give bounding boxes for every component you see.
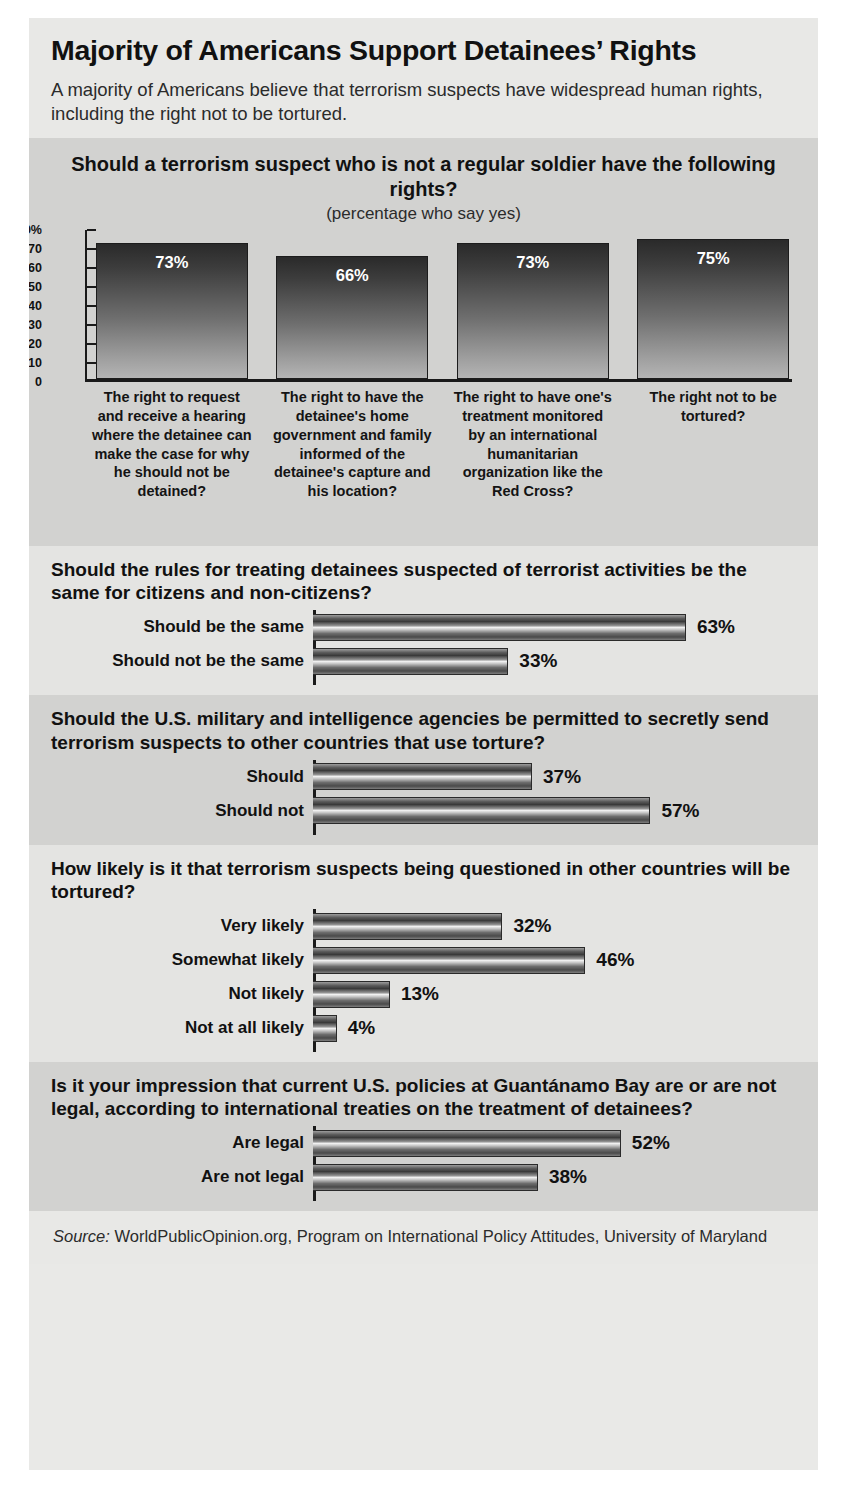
source-text: WorldPublicOpinion.org, Program on Inter… — [110, 1227, 767, 1245]
y-tick-label-60: 60 — [29, 261, 42, 275]
bar-value-label: 57% — [661, 800, 699, 822]
horizontal-bar — [313, 763, 532, 790]
bar-value-label: 52% — [632, 1132, 670, 1154]
bar-category-label: Should not — [51, 801, 313, 821]
bar-category-label: Not likely — [51, 984, 313, 1004]
chart-section-rules-same: Should the rules for treating detainees … — [29, 546, 818, 695]
horizontal-bar — [313, 797, 650, 824]
vertical-bar-slot: 75% — [632, 230, 794, 379]
bar-row: Should not be the same 33% — [51, 644, 796, 678]
bar-row: Not at all likely 4% — [51, 1011, 796, 1045]
chart-subtitle-rights: (percentage who say yes) — [51, 204, 796, 224]
horizontal-bar — [313, 1015, 337, 1042]
vertical-bars-group: 73% 66% 73% 75 — [91, 230, 794, 379]
category-labels-group: The right to request and receive a heari… — [51, 388, 796, 501]
bar-row: Not likely 13% — [51, 977, 796, 1011]
horizontal-bar-chart: Are legal 52% Are not legal 38% — [51, 1126, 796, 1201]
source-footer: Source: WorldPublicOpinion.org, Program … — [29, 1211, 818, 1263]
bar-value-label: 63% — [697, 616, 735, 638]
y-tick-label-40: 40 — [29, 299, 42, 313]
chart-section-rendition: Should the U.S. military and intelligenc… — [29, 695, 818, 844]
bar-category-label: Somewhat likely — [51, 950, 313, 970]
horizontal-bar-chart: Should be the same 63% Should not be the… — [51, 610, 796, 685]
vertical-bar: 75% — [637, 239, 789, 379]
horizontal-bar — [313, 648, 508, 675]
category-label: The right to have the detainee's home go… — [271, 388, 433, 501]
vertical-bar: 66% — [276, 256, 428, 379]
bar-category-label: Are legal — [51, 1133, 313, 1153]
category-label: The right not to be tortured? — [632, 388, 794, 501]
vertical-bar-slot: 73% — [452, 230, 614, 379]
bar-category-label: Should — [51, 767, 313, 787]
vertical-bar-slot: 73% — [91, 230, 253, 379]
bar-value-label: 4% — [348, 1017, 375, 1039]
vertical-bar-slot: 66% — [271, 230, 433, 379]
page-subtitle: A majority of Americans believe that ter… — [51, 78, 796, 126]
horizontal-bar — [313, 981, 390, 1008]
chart-title-rules-same: Should the rules for treating detainees … — [51, 558, 796, 604]
y-tick-label-80: 80% — [29, 223, 42, 237]
y-tick-label-50: 50 — [29, 280, 42, 294]
chart-title-rights: Should a terrorism suspect who is not a … — [51, 152, 796, 202]
bar-category-label: Not at all likely — [51, 1018, 313, 1038]
chart-section-guantanamo: Is it your impression that current U.S. … — [29, 1062, 818, 1211]
bar-value-label: 46% — [596, 949, 634, 971]
horizontal-bar-chart: Very likely 32% Somewhat likely 46% — [51, 909, 796, 1052]
bar-row: Are not legal 38% — [51, 1160, 796, 1194]
y-tick-label-0: 0 — [29, 375, 42, 389]
source-label: Source: — [53, 1227, 110, 1245]
bar-value-label: 37% — [543, 766, 581, 788]
bar-category-label: Very likely — [51, 916, 313, 936]
poster-card: Majority of Americans Support Detainees’… — [29, 18, 818, 1470]
bar-value-label: 38% — [549, 1166, 587, 1188]
bar-row: Should 37% — [51, 760, 796, 794]
bar-row: Very likely 32% — [51, 909, 796, 943]
bar-category-label: Should be the same — [51, 617, 313, 637]
poster-header: Majority of Americans Support Detainees’… — [29, 18, 818, 138]
vertical-bar: 73% — [96, 243, 248, 379]
horizontal-bar — [313, 947, 585, 974]
chart-section-rights: Should a terrorism suspect who is not a … — [29, 138, 818, 546]
horizontal-bar-chart: Should 37% Should not 57% — [51, 760, 796, 835]
infographic-page: Majority of Americans Support Detainees’… — [0, 0, 847, 1487]
category-label: The right to have one's treatment monito… — [452, 388, 614, 501]
bar-value-label: 66% — [277, 266, 427, 285]
bar-value-label: 75% — [638, 249, 788, 268]
bar-value-label: 13% — [401, 983, 439, 1005]
y-tick-label-30: 30 — [29, 318, 42, 332]
y-tick-label-70: 70 — [29, 242, 42, 256]
y-tick-label-20: 20 — [29, 337, 42, 351]
category-label: The right to request and receive a heari… — [91, 388, 253, 501]
horizontal-bar — [313, 1130, 621, 1157]
horizontal-bar — [313, 614, 686, 641]
y-tick-label-10: 10 — [29, 356, 42, 370]
bar-row: Somewhat likely 46% — [51, 943, 796, 977]
bar-category-label: Should not be the same — [51, 651, 313, 671]
chart-title-likelihood: How likely is it that terrorism suspects… — [51, 857, 796, 903]
chart-title-guantanamo: Is it your impression that current U.S. … — [51, 1074, 796, 1120]
bar-value-label: 32% — [513, 915, 551, 937]
page-title: Majority of Americans Support Detainees’… — [51, 36, 796, 66]
bar-value-label: 33% — [519, 650, 557, 672]
bar-value-label: 73% — [97, 253, 247, 272]
bar-row: Should not 57% — [51, 794, 796, 828]
bar-row: Are legal 52% — [51, 1126, 796, 1160]
vertical-bar: 73% — [457, 243, 609, 379]
vertical-bar-chart: 80% 70 60 50 40 30 20 10 0 — [51, 230, 796, 382]
x-axis-line — [85, 379, 792, 382]
chart-title-rendition: Should the U.S. military and intelligenc… — [51, 707, 796, 753]
bar-row: Should be the same 63% — [51, 610, 796, 644]
horizontal-bar — [313, 913, 502, 940]
horizontal-bar — [313, 1164, 538, 1191]
chart-section-likelihood: How likely is it that terrorism suspects… — [29, 845, 818, 1062]
bar-category-label: Are not legal — [51, 1167, 313, 1187]
bar-value-label: 73% — [458, 253, 608, 272]
